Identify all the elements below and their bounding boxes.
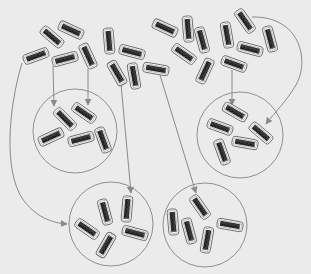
free-capsule xyxy=(194,26,210,54)
arrow-to-top-left-a xyxy=(53,66,54,106)
free-capsule xyxy=(118,44,146,60)
group-bottom-left-capsule xyxy=(121,196,133,223)
free-capsule xyxy=(103,28,115,55)
free-capsule xyxy=(22,47,50,65)
group-bottom-right-capsule xyxy=(200,226,214,253)
group-bottom-right-capsule xyxy=(167,209,179,236)
group-bottom-left-capsule xyxy=(73,217,100,240)
group-top-left-capsule xyxy=(37,127,65,147)
arrow-to-top-right-curve xyxy=(252,17,302,124)
free-capsule xyxy=(51,51,79,67)
free-capsule xyxy=(182,16,194,43)
capsules xyxy=(22,7,278,258)
group-bottom-right-capsule xyxy=(181,217,197,245)
grouping-diagram xyxy=(0,0,311,274)
group-top-right-capsule xyxy=(231,136,258,150)
group-top-right-capsule xyxy=(206,118,234,136)
free-capsule xyxy=(233,7,256,34)
free-capsule xyxy=(106,59,128,87)
arrow-to-bottom-right-top xyxy=(160,75,196,193)
group-bottom-left-capsule xyxy=(121,225,149,241)
free-capsule xyxy=(170,42,197,65)
free-capsule xyxy=(142,62,169,76)
group-top-left-capsule xyxy=(67,131,95,147)
free-capsule xyxy=(220,55,248,73)
group-top-left-capsule xyxy=(94,126,112,154)
free-capsule xyxy=(262,25,278,53)
diagram-canvas xyxy=(0,0,311,274)
free-capsule xyxy=(236,41,264,57)
group-bottom-right-capsule xyxy=(188,193,211,220)
group-top-right-capsule xyxy=(221,101,249,123)
arrow-to-bottom-left-top xyxy=(121,84,131,193)
group-top-right-capsule xyxy=(213,138,231,166)
group-bottom-left-capsule xyxy=(97,198,113,226)
arrow-to-bottom-left-curve xyxy=(10,63,67,224)
free-capsule xyxy=(151,18,179,38)
free-capsule xyxy=(220,21,234,48)
free-capsule xyxy=(78,42,98,70)
free-capsule xyxy=(57,20,85,40)
group-bottom-right-capsule xyxy=(216,218,243,232)
free-capsule xyxy=(127,62,141,89)
free-capsule xyxy=(195,57,215,85)
